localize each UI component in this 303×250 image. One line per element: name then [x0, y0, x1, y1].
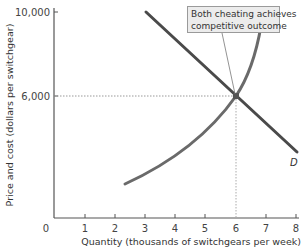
x-tick-label-4: 4 — [172, 223, 178, 234]
demand-curve — [146, 12, 297, 152]
demand-label: D — [290, 157, 298, 168]
x-tick-label-7: 7 — [263, 223, 269, 234]
x-tick-label-6: 6 — [233, 223, 239, 234]
x-tick-label-8: 8 — [293, 223, 299, 234]
y-axis-title: Price and cost (dollars per switchgear) — [4, 24, 15, 207]
annotation-callout: Both cheating achieves competitive outco… — [187, 6, 280, 33]
y-tick-label-10000: 10,000 — [15, 7, 50, 18]
x-axis-title: Quantity (thousands of switchgears per w… — [81, 236, 301, 247]
x-tick-label-3: 3 — [142, 223, 148, 234]
x-tick-label-1: 1 — [82, 223, 88, 234]
origin-label: 0 — [43, 223, 49, 234]
x-tick-label-2: 2 — [112, 223, 118, 234]
chart: 10,000 6,000 0 1 2 3 4 5 6 7 8 Quantity … — [0, 0, 303, 250]
mc1-curve — [125, 26, 261, 184]
callout-line-1: Both cheating achieves — [191, 8, 276, 20]
equilibrium-point — [233, 93, 239, 99]
x-tick-label-5: 5 — [202, 223, 208, 234]
y-tick-label-6000: 6,000 — [21, 91, 50, 102]
callout-line-2: competitive outcome — [191, 20, 276, 32]
